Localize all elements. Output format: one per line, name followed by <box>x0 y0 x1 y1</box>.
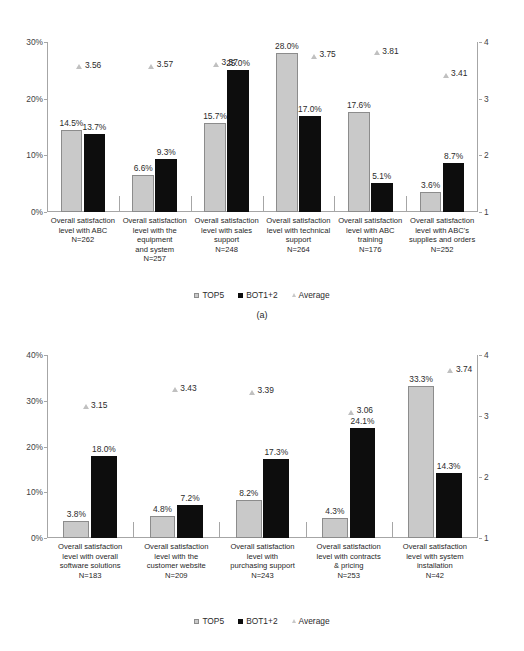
average-marker-triangle <box>374 50 380 55</box>
y-axis-left-tick-label: 20% <box>11 94 43 103</box>
y-axis-left-tick-mark <box>44 99 47 100</box>
bar-value-label-top5: 4.3% <box>317 507 353 516</box>
bar-value-label-top5: 8.2% <box>231 489 267 498</box>
bar-top5 <box>63 521 89 538</box>
y-axis-left-tick-mark <box>44 447 47 448</box>
bar-value-label-bot12: 5.1% <box>364 172 400 181</box>
chart-panel-a: 0%10%20%30%123414.5%13.7%3.56Overall sat… <box>0 0 524 330</box>
average-marker-triangle <box>348 410 354 415</box>
category-label: Overall satisfaction level with contract… <box>303 542 395 580</box>
category-separator <box>263 196 264 212</box>
legend-square-icon-top5 <box>194 619 199 624</box>
average-marker-triangle <box>83 404 89 409</box>
bar-value-label-top5: 4.8% <box>145 505 181 514</box>
category-separator <box>392 522 393 538</box>
bar-value-label-bot12: 8.7% <box>436 152 472 161</box>
category-label: Overall satisfaction level with ABC's su… <box>403 216 481 254</box>
category-separator <box>219 522 220 538</box>
average-value-label: 3.06 <box>357 406 373 415</box>
y-axis-left-tick-mark <box>44 401 47 402</box>
legend-square-icon-top5 <box>194 293 199 298</box>
bar-value-label-top5: 33.3% <box>403 375 439 384</box>
y-axis-left-tick-mark <box>44 42 47 43</box>
bar-value-label-bot12: 17.0% <box>292 105 328 114</box>
average-marker-triangle <box>148 64 154 69</box>
legend-triangle-icon <box>292 619 296 623</box>
average-value-label: 3.57 <box>157 60 173 69</box>
average-value-label: 3.75 <box>319 50 335 59</box>
legend-item-average[interactable]: Average <box>292 616 330 626</box>
bar-bot12 <box>371 183 393 212</box>
chart-panel-b: 0%10%20%30%40%12343.8%18.0%3.15Overall s… <box>0 320 524 651</box>
y-axis-left-tick-label: 10% <box>11 488 43 497</box>
legend-label: BOT1+2 <box>246 616 277 626</box>
legend-square-icon-bot12 <box>238 619 243 624</box>
bar-bot12 <box>263 459 289 538</box>
category-separator <box>334 196 335 212</box>
y-axis-right-tick-label: 2 <box>484 473 510 482</box>
legend-b: TOP5BOT1+2Average <box>0 616 524 626</box>
category-label: Overall satisfaction level with the equi… <box>116 216 194 264</box>
bar-top5 <box>132 175 154 212</box>
bar-value-label-bot12: 13.7% <box>76 123 112 132</box>
y-axis-left-tick-label: 10% <box>11 151 43 160</box>
category-separator <box>306 522 307 538</box>
bar-value-label-top5: 28.0% <box>269 42 305 51</box>
category-label: Overall satisfaction level with the cust… <box>130 542 222 580</box>
bar-value-label-top5: 17.6% <box>341 101 377 110</box>
y-axis-left-tick-label: 0% <box>11 534 43 543</box>
category-label: Overall satisfaction level with system i… <box>389 542 481 580</box>
bar-value-label-bot12: 14.3% <box>431 462 467 471</box>
average-marker-triangle <box>311 54 317 59</box>
y-axis-right-tick-label: 2 <box>484 151 510 160</box>
y-axis-left-tick-label: 30% <box>11 38 43 47</box>
y-axis-right-tick-label: 3 <box>484 94 510 103</box>
average-marker-triangle <box>172 387 178 392</box>
legend-item-top5[interactable]: TOP5 <box>194 616 224 626</box>
bar-top5 <box>348 112 370 212</box>
y-axis-left-line <box>47 42 48 212</box>
bar-value-label-bot12: 18.0% <box>86 445 122 454</box>
legend-label: Average <box>299 616 330 626</box>
legend-item-bot12[interactable]: BOT1+2 <box>238 290 277 300</box>
legend-label: TOP5 <box>202 616 224 626</box>
bar-bot12 <box>84 134 106 212</box>
average-value-label: 3.57 <box>222 58 238 67</box>
bar-bot12 <box>91 456 117 538</box>
legend-item-average[interactable]: Average <box>292 290 330 300</box>
bar-value-label-bot12: 17.3% <box>258 448 294 457</box>
legend-label: BOT1+2 <box>246 290 277 300</box>
legend-item-bot12[interactable]: BOT1+2 <box>238 616 277 626</box>
category-separator <box>119 196 120 212</box>
category-label: Overall satisfaction level with ABC N=26… <box>44 216 122 245</box>
bar-top5 <box>236 500 262 538</box>
y-axis-right-tick-mark <box>479 477 482 478</box>
y-axis-left-line <box>47 355 48 538</box>
legend-a: TOP5BOT1+2Average <box>0 290 524 300</box>
bar-top5 <box>150 516 176 538</box>
bar-bot12 <box>436 473 462 538</box>
y-axis-left-tick-mark <box>44 538 47 539</box>
y-axis-right-tick-mark <box>479 212 482 213</box>
y-axis-right-tick-mark <box>479 42 482 43</box>
legend-square-icon-bot12 <box>238 293 243 298</box>
category-separator <box>191 196 192 212</box>
category-label: Overall satisfaction level with sales su… <box>188 216 266 254</box>
bar-bot12 <box>350 428 376 538</box>
y-axis-right-tick-mark <box>479 155 482 156</box>
bar-bot12 <box>227 70 249 212</box>
category-label: Overall satisfaction level with purchasi… <box>216 542 308 580</box>
legend-triangle-icon <box>292 293 296 297</box>
category-label: Overall satisfaction level with ABC trai… <box>331 216 409 254</box>
y-axis-left-tick-label: 40% <box>11 351 43 360</box>
y-axis-right-tick-label: 4 <box>484 38 510 47</box>
bar-value-label-bot12: 24.1% <box>344 417 380 426</box>
y-axis-left-tick-mark <box>44 155 47 156</box>
bar-bot12 <box>155 159 177 212</box>
average-marker-triangle <box>76 64 82 69</box>
y-axis-left-tick-mark <box>44 212 47 213</box>
legend-label: Average <box>299 290 330 300</box>
average-value-label: 3.15 <box>91 401 107 410</box>
average-value-label: 3.41 <box>451 69 467 78</box>
legend-item-top5[interactable]: TOP5 <box>194 290 224 300</box>
